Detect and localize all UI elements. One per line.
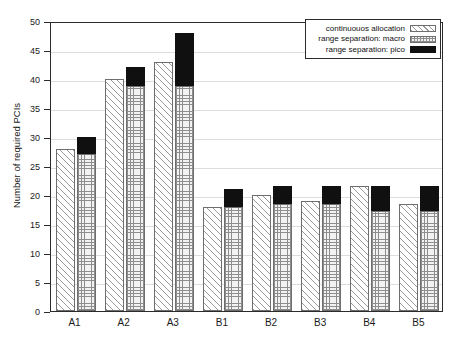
- legend-item-continuous: continuouos allocation: [310, 24, 436, 34]
- y-tick-mark: [44, 312, 50, 313]
- bar-range-separation-pico: [77, 137, 96, 154]
- bar-range-separation-macro: [126, 86, 145, 311]
- bar-range-separation-macro: [77, 154, 96, 311]
- bar-range-separation-pico: [273, 186, 292, 203]
- bar-continuous-allocation: [56, 149, 75, 311]
- bar-chart: Number of required PCIs 0510152025303540…: [0, 0, 459, 355]
- y-tick-label: 20: [16, 192, 40, 201]
- bar-range-separation-macro: [322, 204, 341, 311]
- y-tick-label: 0: [16, 308, 40, 317]
- bar-continuous-allocation: [301, 201, 320, 311]
- x-tick-label: B5: [388, 318, 448, 328]
- y-tick-label: 40: [16, 76, 40, 85]
- bar-range-separation-pico: [371, 186, 390, 210]
- bar-continuous-allocation: [350, 186, 369, 311]
- bar-range-separation-pico: [322, 186, 341, 203]
- solid-swatch-icon: [410, 46, 436, 53]
- bar-range-separation-pico: [175, 33, 194, 86]
- crosshatch-swatch-icon: [410, 36, 436, 43]
- bar-range-separation-macro: [175, 86, 194, 311]
- bar-continuous-allocation: [105, 79, 124, 311]
- bar-range-separation-macro: [273, 204, 292, 311]
- y-tick-label: 35: [16, 105, 40, 114]
- bar-range-separation-macro: [420, 211, 439, 311]
- bar-continuous-allocation: [252, 195, 271, 311]
- y-tick-label: 15: [16, 221, 40, 230]
- bar-range-separation-pico: [126, 67, 145, 86]
- bar-range-separation-pico: [224, 189, 243, 206]
- plot-area: [50, 22, 443, 312]
- legend-label-macro: range separation: macro: [318, 35, 405, 43]
- legend-item-macro: range separation: macro: [310, 34, 436, 44]
- bar-range-separation-macro: [224, 207, 243, 311]
- y-tick-label: 5: [16, 279, 40, 288]
- chart-legend: continuouos allocation range separation:…: [305, 19, 441, 59]
- bar-continuous-allocation: [154, 62, 173, 311]
- legend-item-pico: range separation: pico: [310, 45, 436, 55]
- y-tick-label: 30: [16, 134, 40, 143]
- bar-range-separation-macro: [371, 211, 390, 311]
- bar-continuous-allocation: [399, 204, 418, 311]
- bar-range-separation-pico: [420, 186, 439, 210]
- y-tick-label: 45: [16, 47, 40, 56]
- bar-continuous-allocation: [203, 207, 222, 311]
- y-tick-label: 50: [16, 18, 40, 27]
- y-tick-label: 10: [16, 250, 40, 259]
- legend-label-pico: range separation: pico: [326, 46, 405, 54]
- legend-label-continuous: continuouos allocation: [326, 25, 405, 33]
- hatch-swatch-icon: [410, 25, 436, 32]
- y-tick-label: 25: [16, 163, 40, 172]
